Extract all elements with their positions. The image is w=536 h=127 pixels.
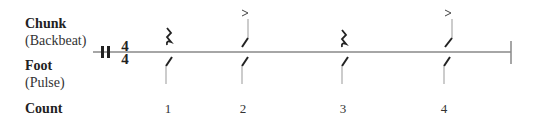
time-signature-bottom: 4: [121, 51, 129, 67]
slash-note-icon: [242, 57, 248, 84]
quarter-rest-icon: [167, 28, 171, 45]
count-beat-4: 4: [441, 101, 448, 117]
count-beat-3: 3: [340, 101, 347, 117]
accented-slash-note-icon: [242, 10, 248, 47]
slash-note-icon: [342, 57, 348, 84]
count-beat-2: 2: [240, 101, 247, 117]
notation-staff: 4 4: [0, 0, 536, 127]
slash-note-icon: [166, 57, 172, 84]
slash-note-icon: [444, 57, 450, 84]
accented-slash-note-icon: [445, 10, 452, 47]
quarter-rest-icon: [342, 30, 346, 47]
start-barline-icon: [101, 46, 104, 58]
count-beat-1: 1: [165, 101, 172, 117]
